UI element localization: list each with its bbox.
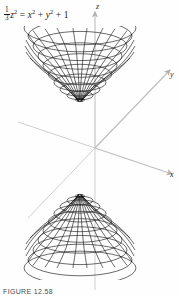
figure-container: 1 3 z2 = x2 + y2 + 1 z y x FIGURE 12.58 bbox=[0, 0, 179, 296]
equation-lhs-exponent: 2 bbox=[14, 8, 17, 15]
lower-nappe-mesh bbox=[24, 194, 136, 284]
equation-plus-second: + bbox=[56, 10, 61, 20]
fraction-denominator: 3 bbox=[4, 15, 10, 22]
axes-group bbox=[18, 12, 172, 290]
equation-equals: = bbox=[20, 10, 25, 20]
surface-equation: 1 3 z2 = x2 + y2 + 1 bbox=[4, 7, 69, 23]
caption-number: 12.58 bbox=[34, 288, 53, 295]
axis-label-z: z bbox=[96, 2, 99, 11]
equation-plus-first: + bbox=[38, 10, 43, 20]
axis-label-x: x bbox=[170, 170, 174, 179]
caption-prefix: FIGURE bbox=[3, 288, 32, 295]
equation-fraction: 1 3 bbox=[4, 7, 10, 23]
axis-line-y bbox=[95, 70, 170, 148]
hyperboloid-plot bbox=[0, 0, 179, 296]
axis-label-y: y bbox=[170, 70, 174, 79]
axis-line-x bbox=[95, 148, 172, 174]
axis-line-x-negative bbox=[18, 122, 95, 148]
figure-caption: FIGURE 12.58 bbox=[3, 288, 53, 295]
equation-constant: 1 bbox=[64, 10, 69, 20]
equation-term1-exponent: 2 bbox=[32, 8, 35, 15]
equation-term2-exponent: 2 bbox=[50, 8, 53, 15]
upper-nappe-mesh bbox=[24, 11, 136, 101]
